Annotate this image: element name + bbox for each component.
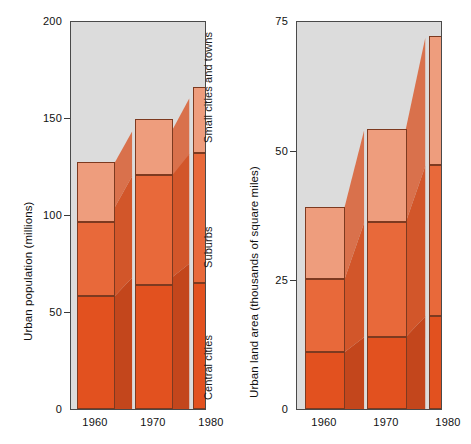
bar-1960-suburbs-area (305, 279, 345, 352)
bars-left (71, 22, 205, 409)
stacked-bar-figure: Urban population (millions) 200 150 100 … (0, 0, 471, 444)
bar-1960-small-cities (77, 162, 115, 222)
x-tick-label-1970-left: 1970 (140, 416, 165, 428)
y-tick-label-100: 100 (32, 209, 62, 221)
bar-1970-central-cities (135, 285, 173, 409)
y-tick-label-25: 25 (258, 274, 288, 286)
x-tick-label-1960-left: 1960 (82, 416, 107, 428)
plot-area-left (70, 21, 206, 410)
series-label-suburbs: Suburbs (202, 226, 214, 268)
y-tick-label-200: 200 (32, 15, 62, 27)
y-tick-label-50: 50 (32, 306, 62, 318)
chart-panel-urban-population: Urban population (millions) 200 150 100 … (0, 0, 236, 444)
bar-1970-suburbs-area (367, 222, 407, 337)
x-tick-label-1980-left: 1980 (198, 416, 223, 428)
bar-1980-suburbs-area (429, 165, 442, 316)
series-label-small-cities-and-towns: Small cities and towns (202, 32, 214, 143)
series-label-central-cities: Central cities (202, 335, 214, 400)
y-tick-label-75: 75 (258, 15, 288, 27)
plot-area-right (296, 21, 442, 410)
bar-1960-suburbs (77, 222, 115, 296)
bar-1960-central-cities-area (305, 352, 345, 409)
x-tick-label-1960-right: 1960 (311, 416, 336, 428)
bars-right (297, 22, 441, 409)
chart-panel-urban-land-area: Urban land area (thousands of square mil… (231, 0, 471, 444)
bar-1970-small-cities (135, 119, 173, 175)
bar-1980-central-cities-area (429, 316, 442, 409)
y-tick-label-0-right: 0 (258, 403, 288, 415)
bar-1980-small-cities-area (429, 36, 442, 165)
bar-1960-small-cities-area (305, 207, 345, 279)
y-tick-label-50-right: 50 (258, 145, 288, 157)
x-tick-label-1970-right: 1970 (373, 416, 398, 428)
y-tick-label-0: 0 (32, 403, 62, 415)
bar-1970-suburbs (135, 175, 173, 285)
x-tick-label-1980-right: 1980 (435, 416, 460, 428)
y-tick-label-150: 150 (32, 112, 62, 124)
bar-1960-central-cities (77, 296, 115, 409)
bar-1970-central-cities-area (367, 337, 407, 409)
y-axis-title-left: Urban population (millions) (22, 202, 34, 342)
bar-1970-small-cities-area (367, 129, 407, 222)
